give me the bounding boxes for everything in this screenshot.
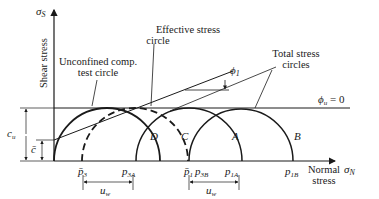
x-axis-label-line2: stress bbox=[312, 175, 335, 186]
uw-label-left: uw bbox=[100, 184, 111, 198]
unconfined-circle bbox=[54, 108, 160, 161]
y-axis-symbol: σS bbox=[36, 5, 45, 19]
total-label-line1: Total stress bbox=[272, 48, 319, 59]
tick-p3a: p3A bbox=[121, 165, 136, 179]
tick-p1bar: p̄1 bbox=[183, 165, 193, 179]
phi1-label: ϕ1 bbox=[230, 64, 240, 78]
y-axis-label: Shear stress bbox=[38, 38, 49, 88]
effective-envelope-line bbox=[54, 71, 233, 140]
x-axis-label-line1: Normal bbox=[308, 164, 340, 175]
total-label-line2: circles bbox=[282, 59, 309, 70]
total-leader-2 bbox=[255, 70, 272, 108]
tick-p1b: p1B bbox=[284, 165, 299, 179]
effective-label-line1: Effective stress bbox=[156, 24, 220, 35]
circle-label-a: A bbox=[231, 130, 239, 142]
effective-leader bbox=[151, 44, 154, 106]
phiu-label: ϕu = 0 bbox=[318, 93, 345, 107]
circle-label-b: B bbox=[294, 130, 301, 142]
cbar-label: c̄ bbox=[31, 143, 36, 155]
tick-p3bar: p̄3 bbox=[77, 165, 88, 179]
unconfined-leader bbox=[92, 80, 97, 106]
cu-label: cu bbox=[7, 127, 16, 141]
tick-p1a: p1A bbox=[224, 165, 239, 179]
circle-label-d: D bbox=[149, 130, 158, 142]
effective-label-line2: circle bbox=[146, 35, 170, 46]
x-axis-symbol: σN bbox=[344, 163, 355, 177]
uw-label-right: uw bbox=[206, 184, 217, 198]
circle-label-c: C bbox=[181, 130, 189, 142]
tick-p3b: p3B bbox=[194, 165, 209, 179]
mohr-circle-diagram: σS Shear stress σN Normal stress Effecti… bbox=[0, 0, 379, 199]
unconfined-label-line2: test circle bbox=[78, 67, 119, 78]
unconfined-label-line1: Unconfined comp. bbox=[59, 56, 137, 67]
